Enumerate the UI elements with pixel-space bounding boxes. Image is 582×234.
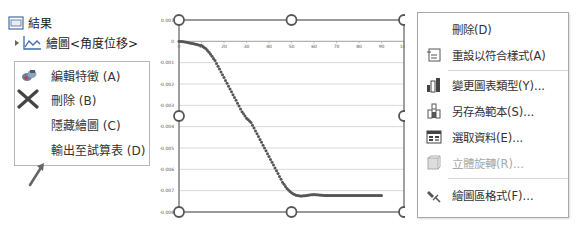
svg-text:-0.002: -0.002 <box>160 82 174 87</box>
svg-text:0.001: 0.001 <box>161 18 174 23</box>
menu-separator <box>448 178 568 179</box>
svg-text:-0.006: -0.006 <box>160 167 174 172</box>
chart-type-icon <box>426 77 442 93</box>
angular-displacement-chart[interactable]: 0.0010-0.001-0.002-0.003-0.004-0.005-0.0… <box>160 0 405 234</box>
expand-arrow-icon <box>14 39 20 47</box>
svg-text:-0.003: -0.003 <box>160 103 174 108</box>
resize-handle[interactable] <box>287 15 297 25</box>
svg-text:70: 70 <box>334 44 340 49</box>
menu-label-save-template: 另存為範本(S)... <box>452 103 534 119</box>
svg-text:30: 30 <box>244 44 250 49</box>
menu-item-delete[interactable]: 刪除 (B) <box>15 88 149 110</box>
svg-text:-0.005: -0.005 <box>160 146 174 151</box>
menu-item-format-plot-area[interactable]: 繪圖區格式(F)... <box>418 183 568 207</box>
menu-item-delete-chart[interactable]: 刪除(D) <box>418 17 568 41</box>
3d-rotation-icon <box>426 155 442 171</box>
svg-text:50: 50 <box>289 44 295 49</box>
menu-item-edit-feature[interactable]: 編輯特徵 (A) <box>15 64 149 86</box>
select-data-icon <box>426 129 442 145</box>
svg-text:60: 60 <box>311 44 317 49</box>
resize-handle[interactable] <box>174 207 184 217</box>
svg-text:-0.008: -0.008 <box>160 210 174 215</box>
annotation-arrow-icon <box>26 160 48 188</box>
menu-item-export-spreadsheet[interactable]: 輸出至試算表 (D) <box>15 138 149 160</box>
menu-item-3d-rotation[interactable]: 立體旋轉(R)... <box>418 151 568 175</box>
svg-text:0: 0 <box>171 39 174 44</box>
menu-label-reset-style: 重設以符合樣式(A) <box>452 47 546 63</box>
resize-handle[interactable] <box>174 111 184 121</box>
menu-separator <box>448 70 568 71</box>
menu-label-select-data: 選取資料(E)... <box>452 129 523 145</box>
menu-item-hide-plot[interactable]: 隱藏繪圖 (C) <box>15 113 149 135</box>
svg-text:20: 20 <box>221 44 227 49</box>
menu-label-format-plot-area: 繪圖區格式(F)... <box>452 187 534 203</box>
resize-handle[interactable] <box>399 207 405 217</box>
folder-results-icon <box>8 16 24 30</box>
menu-item-select-data[interactable]: 選取資料(E)... <box>418 125 568 149</box>
reset-style-icon <box>426 47 442 63</box>
svg-text:80: 80 <box>356 44 362 49</box>
menu-label-export-spreadsheet: 輸出至試算表 (D) <box>51 141 145 158</box>
delete-x-icon <box>17 89 39 109</box>
resize-handle[interactable] <box>287 207 297 217</box>
menu-label-change-chart-type: 變更圖表類型(Y)... <box>452 77 545 93</box>
menu-item-save-template[interactable]: 另存為範本(S)... <box>418 99 568 123</box>
tree-label-plot: 繪圖<角度位移> <box>46 34 138 51</box>
tree-item-results[interactable]: 結果 <box>8 14 52 31</box>
svg-text:-0.007: -0.007 <box>160 188 174 193</box>
save-template-icon <box>426 103 442 119</box>
menu-label-hide-plot: 隱藏繪圖 (C) <box>51 116 121 133</box>
resize-handle[interactable] <box>399 15 405 25</box>
svg-text:40: 40 <box>266 44 272 49</box>
menu-label-edit-feature: 編輯特徵 (A) <box>51 67 120 84</box>
resize-handle[interactable] <box>399 111 405 121</box>
resize-handle[interactable] <box>174 15 184 25</box>
tree-item-plot[interactable]: 繪圖<角度位移> <box>14 34 138 51</box>
chart-plot-area: 0.0010-0.001-0.002-0.003-0.004-0.005-0.0… <box>160 0 405 234</box>
edit-feature-icon <box>21 67 37 83</box>
plot-context-menu: 編輯特徵 (A) 刪除 (B) 隱藏繪圖 (C) 輸出至試算表 (D) <box>14 61 150 166</box>
format-plot-area-icon <box>426 187 442 203</box>
svg-text:-0.004: -0.004 <box>160 124 174 129</box>
tree-label-results: 結果 <box>28 14 52 31</box>
chart-context-menu: 刪除(D) 重設以符合樣式(A) 變更圖表類型(Y)... 另存為範本(S)..… <box>417 12 569 218</box>
line-plot-icon <box>22 35 42 51</box>
menu-label-delete: 刪除 (B) <box>51 91 96 108</box>
menu-label-delete-chart: 刪除(D) <box>452 21 492 37</box>
menu-item-change-chart-type[interactable]: 變更圖表類型(Y)... <box>418 73 568 97</box>
svg-text:90: 90 <box>379 44 385 49</box>
menu-item-reset-style[interactable]: 重設以符合樣式(A) <box>418 43 568 67</box>
menu-label-3d-rotation: 立體旋轉(R)... <box>452 155 524 171</box>
svg-text:-0.001: -0.001 <box>160 60 174 65</box>
